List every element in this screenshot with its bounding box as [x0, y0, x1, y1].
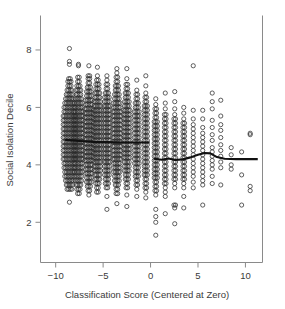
data-point	[135, 88, 139, 92]
data-point	[163, 186, 167, 190]
data-point	[210, 138, 214, 142]
data-point	[191, 148, 195, 152]
data-point	[144, 74, 148, 78]
x-tick-label: 10	[240, 270, 251, 281]
data-point	[135, 187, 139, 191]
y-axis-label: Social Isolation Decile	[4, 94, 15, 187]
data-point	[191, 123, 195, 127]
x-tick-label: −5	[98, 270, 109, 281]
data-point	[191, 140, 195, 144]
data-point	[219, 135, 223, 139]
data-point	[210, 181, 214, 185]
data-point	[210, 167, 214, 171]
data-point	[219, 143, 223, 147]
data-point	[115, 202, 119, 206]
data-point	[182, 105, 186, 109]
data-point	[201, 183, 205, 187]
plot-canvas: −10−50510 2468 Classification Score (Cen…	[0, 0, 285, 309]
data-point	[105, 194, 109, 198]
data-point	[210, 146, 214, 150]
data-point	[154, 233, 158, 237]
data-point	[210, 118, 214, 122]
x-tick-label: 0	[148, 270, 153, 281]
data-point	[67, 46, 71, 50]
data-point	[154, 207, 158, 211]
data-point	[191, 64, 195, 68]
data-point	[248, 189, 252, 193]
data-point	[219, 160, 223, 164]
data-point	[219, 123, 223, 127]
data-point	[144, 196, 148, 200]
data-point	[210, 174, 214, 178]
data-point	[201, 148, 205, 152]
data-point	[125, 193, 129, 197]
data-point	[201, 157, 205, 161]
data-point	[163, 91, 167, 95]
data-point	[182, 194, 186, 198]
data-point	[144, 190, 148, 194]
data-point	[201, 108, 205, 112]
data-point	[210, 100, 214, 104]
data-point	[182, 181, 186, 185]
data-point	[154, 97, 158, 101]
data-point	[191, 174, 195, 178]
data-point	[229, 146, 233, 150]
data-point	[191, 117, 195, 121]
data-point	[191, 180, 195, 184]
data-point	[219, 148, 223, 152]
data-point	[240, 150, 244, 154]
data-point	[219, 128, 223, 132]
data-point	[229, 167, 233, 171]
x-axis-label: Classification Score (Centered at Zero)	[65, 289, 229, 300]
data-point	[67, 200, 71, 204]
data-point	[191, 135, 195, 139]
y-tick-label: 2	[26, 217, 31, 228]
data-point	[191, 170, 195, 174]
data-point	[173, 100, 177, 104]
x-tick-label: 5	[195, 270, 200, 281]
y-axis-ticks: 2468	[26, 44, 40, 227]
data-point	[201, 170, 205, 174]
data-point	[173, 107, 177, 111]
data-point	[144, 91, 148, 95]
data-point	[67, 62, 71, 66]
data-point	[154, 220, 158, 224]
data-point	[144, 84, 148, 88]
data-point	[201, 144, 205, 148]
data-point	[182, 206, 186, 210]
x-tick-label: −10	[48, 270, 64, 281]
data-point	[191, 166, 195, 170]
x-axis-ticks: −10−50510	[48, 263, 251, 281]
data-point	[173, 206, 177, 210]
data-point	[115, 71, 119, 75]
data-point	[191, 127, 195, 131]
data-point	[201, 140, 205, 144]
data-point	[173, 181, 177, 185]
data-point	[219, 166, 223, 170]
data-point	[201, 203, 205, 207]
data-point	[163, 107, 167, 111]
y-tick-label: 4	[26, 159, 31, 170]
data-point	[105, 207, 109, 211]
data-point	[210, 158, 214, 162]
data-point	[154, 214, 158, 218]
data-point	[135, 194, 139, 198]
data-point	[219, 183, 223, 187]
data-point	[191, 186, 195, 190]
data-point	[163, 194, 167, 198]
data-point	[191, 161, 195, 165]
data-point	[125, 67, 129, 71]
data-point	[163, 212, 167, 216]
data-point	[210, 125, 214, 129]
data-point	[240, 203, 244, 207]
scatter-plot-figure: −10−50510 2468 Classification Score (Cen…	[0, 0, 285, 309]
data-point	[240, 173, 244, 177]
data-point	[201, 174, 205, 178]
y-tick-label: 8	[26, 44, 31, 55]
data-point	[105, 78, 109, 82]
data-point	[191, 144, 195, 148]
data-point	[201, 161, 205, 165]
data-point	[163, 101, 167, 105]
data-point	[182, 186, 186, 190]
data-point	[182, 117, 186, 121]
